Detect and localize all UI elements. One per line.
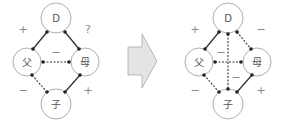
edge-dashed [204,75,219,92]
endpoint-dot [45,90,49,94]
endpoint-dot [63,90,67,94]
node-mother: 母 [243,48,271,76]
diagram-after: D父母子+−−−−+ [185,3,271,119]
endpoint-dot [202,73,206,77]
balance-diagram-canvas: D父母子+?−−+ D父母子+−−−−+ [0,0,284,125]
endpoint-dot [250,73,254,77]
sign-label: − [216,46,225,59]
node-label: 子 [51,99,61,110]
node-father: 父 [13,48,41,76]
edge-solid [33,32,47,49]
node-D: D [41,3,71,33]
sign-label: + [18,23,27,36]
endpoint-dot [63,30,67,34]
endpoint-dot [67,60,71,64]
endpoint-dot [239,60,243,64]
endpoint-dot [226,87,230,91]
sign-label: + [256,84,265,97]
sign-label: − [256,23,265,36]
edge-solid [65,75,80,92]
sign-label: + [190,23,199,36]
node-child: 子 [41,89,71,119]
sign-label: − [51,46,60,59]
node-label: D [224,13,232,24]
sign-label: ? [85,23,91,36]
diagram-before: D父母子+?−−+ [13,3,99,119]
endpoint-dot [41,60,45,64]
edge-dashed [32,75,47,92]
sign-label: − [190,84,199,97]
endpoint-dot [235,30,239,34]
endpoint-dot [45,30,49,34]
sign-label: − [18,84,27,97]
endpoint-dot [30,73,34,77]
sign-label: + [83,84,92,97]
node-label: 母 [80,57,90,68]
endpoint-dot [77,47,81,51]
endpoint-dot [235,90,239,94]
endpoint-dot [217,30,221,34]
endpoint-dot [203,47,207,51]
edge-dashed [237,32,251,49]
node-label: 父 [22,57,32,68]
node-mother: 母 [71,48,99,76]
node-D: D [213,3,243,33]
node-label: 母 [252,57,262,68]
edge-solid [65,32,79,49]
sign-label: − [231,71,240,84]
node-label: 子 [223,99,233,110]
endpoint-dot [31,47,35,51]
node-child: 子 [213,89,243,119]
node-father: 父 [185,48,213,76]
endpoint-dot [217,90,221,94]
endpoint-dot [78,73,82,77]
endpoint-dot [226,32,230,36]
right-arrow-icon [128,34,157,88]
endpoint-dot [249,47,253,51]
node-label: 父 [194,57,204,68]
node-label: D [52,13,60,24]
endpoint-dot [213,60,217,64]
